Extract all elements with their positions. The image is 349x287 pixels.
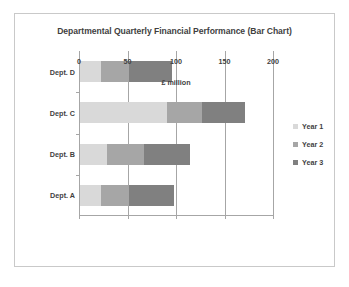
x-axis-tick-mark	[225, 216, 226, 219]
legend-label: Year 3	[302, 158, 323, 167]
legend-label: Year 2	[302, 140, 323, 149]
y-axis-tick-mark	[76, 92, 79, 93]
x-axis-tick-label: 50	[124, 57, 132, 66]
x-axis-tick-label: 200	[267, 57, 279, 66]
y-axis-category-label: Dept. A	[50, 191, 75, 200]
chart-title: Departmental Quarterly Financial Perform…	[15, 26, 334, 36]
bar-segment	[101, 185, 129, 206]
bar-segment	[80, 144, 107, 165]
bar-segment	[202, 102, 245, 123]
legend-label: Year 1	[302, 122, 323, 131]
legend-item[interactable]: Year 2	[293, 135, 323, 153]
legend-swatch-icon	[293, 142, 298, 147]
x-axis-tick-mark	[79, 216, 80, 219]
bar-segment	[80, 185, 101, 206]
bar-segment	[129, 185, 174, 206]
legend-swatch-icon	[293, 160, 298, 165]
chart-legend: Year 1Year 2Year 3	[293, 117, 323, 171]
y-axis-category-label: Dept. C	[50, 108, 75, 117]
gridline	[273, 51, 274, 216]
bar-segment	[107, 144, 144, 165]
x-axis-title: £ million	[79, 78, 273, 87]
bar-segment	[80, 102, 167, 123]
gridline	[225, 51, 226, 216]
bar-segment	[144, 144, 190, 165]
y-axis-tick-mark	[76, 134, 79, 135]
gridline	[176, 51, 177, 216]
legend-swatch-icon	[293, 124, 298, 129]
y-axis-tick-mark	[76, 175, 79, 176]
x-axis-tick-mark	[273, 216, 274, 219]
legend-item[interactable]: Year 3	[293, 153, 323, 171]
legend-item[interactable]: Year 1	[293, 117, 323, 135]
x-axis-tick-mark	[128, 216, 129, 219]
x-axis-tick-label: 150	[219, 57, 231, 66]
x-axis-tick-label: 0	[77, 57, 81, 66]
chart-frame: Departmental Quarterly Financial Perform…	[14, 13, 335, 267]
y-axis-category-label: Dept. D	[50, 67, 75, 76]
plot-area: Dept. DDept. CDept. BDept. A 05010015020…	[79, 51, 273, 216]
bar-segment	[167, 102, 202, 123]
y-axis-category-label: Dept. B	[50, 150, 75, 159]
x-axis-tick-label: 100	[170, 57, 182, 66]
x-axis-tick-mark	[176, 216, 177, 219]
